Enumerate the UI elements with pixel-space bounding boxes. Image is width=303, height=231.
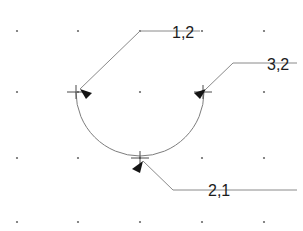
grid-dot	[16, 30, 18, 32]
grid-dot	[139, 221, 141, 223]
grid-dot	[77, 221, 79, 223]
grid-dot	[263, 157, 265, 159]
grid-dot	[263, 30, 265, 32]
grid-dot	[201, 221, 203, 223]
grid-dot	[16, 221, 18, 223]
grid-dot	[16, 157, 18, 159]
point-label-3-2: 3,2	[267, 56, 289, 73]
canvas-background	[0, 0, 303, 231]
grid-dot	[77, 30, 79, 32]
grid-dot	[201, 157, 203, 159]
grid-dot	[201, 30, 203, 32]
cad-drawing-canvas: 1,2 3,2 2,1	[0, 0, 303, 231]
grid-dot	[77, 157, 79, 159]
grid-dot	[139, 91, 141, 93]
point-label-2-1: 2,1	[208, 182, 230, 199]
grid-dot	[263, 221, 265, 223]
grid-dot	[16, 91, 18, 93]
point-label-1-2: 1,2	[172, 24, 194, 41]
cad-drawing-svg: 1,2 3,2 2,1	[0, 0, 303, 231]
grid-dot	[263, 91, 265, 93]
